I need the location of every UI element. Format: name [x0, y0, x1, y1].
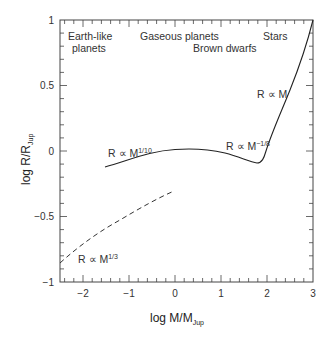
x-tick-label: −2 — [77, 288, 89, 299]
x-tick-label: 2 — [264, 288, 270, 299]
y-axis-title: log R/RJup — [19, 134, 35, 185]
annotation-r-m-neg-1-8: R ∝ M−1/8 — [226, 140, 270, 152]
y-tick-label: 0 — [48, 146, 54, 157]
region-label-stars: Stars — [263, 30, 288, 42]
x-tick-label: 3 — [310, 288, 316, 299]
y-ticks — [60, 33, 313, 269]
y-tick-label: −1 — [43, 277, 55, 288]
region-label-gaseous: Gaseous planets — [140, 30, 219, 42]
x-tick-label: −1 — [123, 288, 135, 299]
x-axis-title: log M/MJup — [150, 311, 204, 327]
mass-radius-chart: −2 −1 0 1 2 3 1 0.5 0 −0.5 −1 log M/MJup… — [0, 0, 330, 339]
annotation-r-m-1-10: R ∝ M1/10 — [108, 147, 152, 159]
x-ticks — [65, 20, 304, 282]
plot-frame — [60, 20, 313, 282]
region-label-brown-dwarfs: Brown dwarfs — [193, 42, 257, 54]
y-tick-labels: 1 0.5 0 −0.5 −1 — [34, 15, 54, 288]
annotation-r-m-1-3: R ∝ M1/3 — [78, 253, 118, 265]
x-tick-label: 1 — [218, 288, 224, 299]
region-label-earth: Earth-like — [68, 30, 113, 42]
annotation-r-m: R ∝ M — [257, 88, 287, 100]
y-tick-label: 0.5 — [40, 80, 54, 91]
x-tick-labels: −2 −1 0 1 2 3 — [77, 288, 316, 299]
x-tick-label: 0 — [172, 288, 178, 299]
y-tick-label: 1 — [48, 15, 54, 26]
region-label-earth-2: planets — [72, 42, 106, 54]
y-tick-label: −0.5 — [34, 211, 54, 222]
